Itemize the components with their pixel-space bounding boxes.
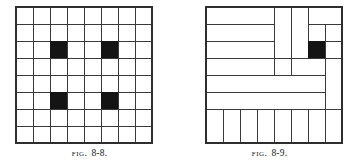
shaded-cell [101,92,118,109]
shaded-cell [50,41,67,58]
figure-8-8-diagram [16,7,152,143]
figure-8-9-svg [206,7,342,143]
shaded-cell [50,92,67,109]
figure-8-9: Fig.8-9. [180,0,359,168]
shaded-cells [308,41,325,58]
figure-8-8-svg [16,7,152,143]
figure-8-9-caption: Fig.8-9. [180,148,359,158]
figure-8-8-caption-label: Fig. [72,148,88,158]
shaded-cell [308,41,325,58]
shaded-cell [101,41,118,58]
figure-8-9-diagram [206,7,342,143]
figure-8-8-caption-number: 8-8. [91,148,107,158]
figure-8-8-caption: Fig.8-8. [0,148,179,158]
figure-8-9-caption-label: Fig. [252,148,268,158]
figure-8-8: Fig.8-8. [0,0,179,168]
figure-8-9-caption-number: 8-9. [271,148,287,158]
